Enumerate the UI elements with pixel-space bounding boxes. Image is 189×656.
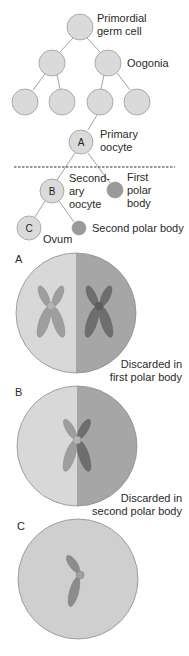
oogonium-cell: [39, 50, 65, 76]
primordial-germ-cell: [67, 14, 93, 40]
panel-c: C: [17, 519, 138, 639]
oogenesis-diagram: Primordial germ cell Oogonia A Primary o…: [0, 0, 189, 656]
ovum-letter: C: [25, 223, 32, 234]
oogonium-cell: [49, 89, 75, 115]
panel-b-caption-line1: Discarded in: [121, 492, 182, 504]
oogonium-cell: [12, 89, 38, 115]
oogonium-cell: [124, 89, 150, 115]
first-polar-body-label-line3: body: [127, 197, 151, 209]
panel-b-caption-line2: second polar body: [92, 505, 182, 517]
panel-a-caption-line2: first polar body: [110, 371, 183, 383]
secondary-oocyte-label-line2: ary: [69, 185, 85, 197]
first-polar-body-label-line1: First: [127, 171, 148, 183]
secondary-oocyte-label-line1: Second-: [69, 172, 110, 184]
panel-a-caption-line1: Discarded in: [121, 358, 182, 370]
second-polar-body: [72, 221, 86, 235]
primordial-label-line1: Primordial: [97, 12, 147, 24]
primordial-label-line2: germ cell: [97, 25, 142, 37]
panel-c-letter: C: [17, 520, 25, 532]
oogonia-label: Oogonia: [127, 57, 169, 69]
oogonium-cell: [87, 89, 113, 115]
panel-b: B Discarded in second polar body: [15, 386, 182, 517]
second-polar-body-label: Second polar body: [92, 222, 184, 234]
primary-oocyte-label-line2: oocyte: [100, 141, 132, 153]
primary-oocyte-letter: A: [78, 137, 85, 148]
ovum-label: Ovum: [43, 233, 72, 245]
first-polar-body: [107, 182, 123, 198]
secondary-oocyte-label-line3: oocyte: [69, 198, 101, 210]
primary-oocyte-label-line1: Primary: [100, 128, 138, 140]
panel-a: A Discarded in first polar body: [15, 253, 182, 383]
panel-b-letter: B: [15, 386, 22, 398]
panel-a-letter: A: [15, 253, 23, 265]
oogonium-cell: [95, 50, 121, 76]
first-polar-body-label-line2: polar: [127, 184, 152, 196]
secondary-oocyte-letter: B: [49, 186, 56, 197]
